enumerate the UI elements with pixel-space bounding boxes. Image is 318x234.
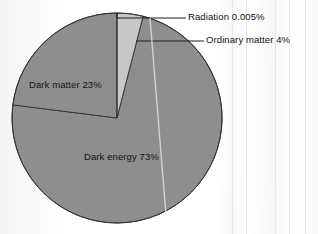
- pie-label-dark-matter: Dark matter 23%: [29, 80, 102, 90]
- pie-slice-dark-matter[interactable]: [13, 13, 117, 118]
- pie-label-dark-energy: Dark energy 73%: [84, 152, 159, 162]
- pie-chart-figure: Radiation 0.005% Ordinary matter 4% Dark…: [0, 0, 318, 234]
- pie-label-ordinary-matter: Ordinary matter 4%: [206, 35, 290, 45]
- pie-label-radiation: Radiation 0.005%: [188, 12, 265, 22]
